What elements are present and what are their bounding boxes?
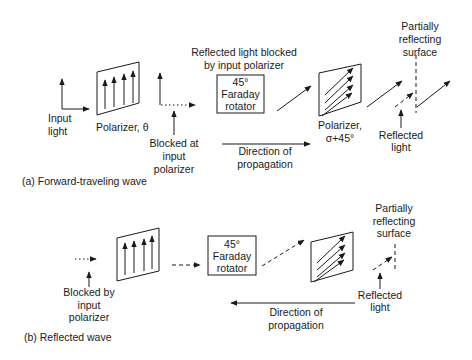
blocked-at-input-label-2: input [163, 150, 186, 162]
svg-text:Faraday: Faraday [221, 88, 260, 100]
rotated-reflected-dashed-arrow [262, 240, 304, 266]
reflected-light-label-2: light [391, 141, 410, 153]
propagation-label-b-2: propagation [268, 319, 324, 331]
panel-b-reflected-wave: Blocked by input polarizer 45° Faraday r… [24, 202, 415, 343]
propagation-label-b: Direction of [269, 306, 322, 318]
polarizer-theta-label: Polarizer, θ [96, 121, 149, 133]
surface-label-b-3: surface [377, 227, 412, 239]
reflected-blocked-note: Reflected light blocked [191, 46, 297, 58]
panel-b-caption: (b) Reflected wave [24, 331, 112, 343]
faraday-rotator-box-b: 45° Faraday rotator [208, 236, 256, 275]
svg-text:rotator: rotator [217, 262, 248, 274]
panel-a-caption: (a) Forward-traveling wave [22, 175, 147, 187]
surface-label-b: Partially [375, 202, 413, 214]
blocked-at-input-label: Blocked at [149, 137, 198, 149]
polarizer-theta-icon [97, 62, 139, 115]
input-light-label: Input [48, 112, 71, 124]
surface-label-b-2: reflecting [373, 215, 416, 227]
propagation-label-2: propagation [237, 158, 293, 170]
input-light-axes-icon [62, 79, 89, 109]
reflected-light-label: Reflected [379, 129, 424, 141]
faraday-rotator-box: 45° Faraday rotator [217, 75, 264, 113]
svg-text:Faraday: Faraday [213, 250, 252, 262]
polarizer-theta-icon-b [117, 228, 159, 281]
polarizer-45-label: Polarizer, [318, 119, 362, 131]
svg-text:45°: 45° [224, 238, 240, 250]
surface-label-3: surface [403, 46, 438, 58]
svg-text:rotator: rotator [225, 100, 256, 112]
input-light-label-2: light [48, 125, 67, 137]
surface-label-2: reflecting [399, 33, 442, 45]
propagation-label: Direction of [238, 145, 291, 157]
faraday-isolator-diagram: Input light Polarizer, θ Blocked at inpu… [0, 0, 472, 360]
surface-label: Partially [401, 20, 439, 32]
reflected-dashed-arrow [395, 93, 413, 107]
blocked-by-input-label: Blocked by [63, 286, 115, 298]
panel-a-forward-wave: Input light Polarizer, θ Blocked at inpu… [22, 20, 450, 187]
blocked-at-input-label-3: polarizer [154, 163, 195, 175]
reflected-light-label-b-2: light [370, 301, 389, 313]
polarizer-45-icon [319, 64, 361, 116]
blocked-by-input-label-2: input [78, 299, 101, 311]
reflected-blocked-note-2: by input polarizer [204, 59, 284, 71]
transmitted-output-arrow [417, 81, 450, 107]
output-polarization-arrow [367, 81, 402, 107]
polarizer-45-label-2: σ+45° [326, 132, 355, 144]
reflected-light-label-b: Reflected [358, 289, 403, 301]
polarizer-45-icon-b [311, 232, 353, 282]
reflected-origin-dashed-arrow [373, 257, 392, 270]
rotated-polarization-arrow [277, 86, 311, 111]
svg-text:45°: 45° [233, 76, 249, 88]
blocked-by-input-label-3: polarizer [69, 311, 110, 323]
